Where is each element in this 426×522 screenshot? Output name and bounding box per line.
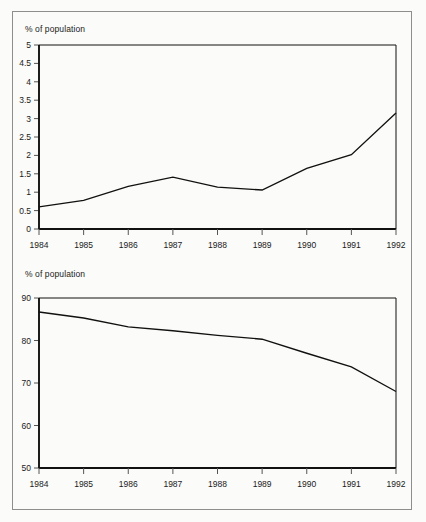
top-ytick-label: 1.5 [19, 169, 31, 179]
top-ytick-label: 1 [26, 187, 31, 197]
bottom-ytick-label: 60 [22, 421, 32, 431]
bottom-data-series [39, 312, 396, 391]
top-ytick-label: 4 [26, 77, 31, 87]
top-xtick-label: 1988 [208, 240, 227, 250]
top-data-series [39, 113, 396, 207]
top-chart-plot: 00.511.522.533.544.551984198519861987198… [0, 0, 426, 262]
bottom-xtick-label: 1987 [163, 479, 182, 489]
bottom-xtick-label: 1986 [119, 479, 138, 489]
top-ytick-label: 3.5 [19, 95, 31, 105]
bottom-xtick-label: 1991 [342, 479, 361, 489]
top-xtick-label: 1987 [163, 240, 182, 250]
page-canvas: % of population 00.511.522.533.544.55198… [0, 0, 426, 522]
bottom-ytick-label: 50 [22, 463, 32, 473]
top-ytick-label: 4.5 [19, 58, 31, 68]
top-xtick-label: 1984 [30, 240, 49, 250]
top-ytick-label: 3 [26, 114, 31, 124]
bottom-chart: % of population 506070809019841985198619… [0, 262, 426, 522]
top-xtick-label: 1985 [74, 240, 93, 250]
bottom-xtick-label: 1985 [74, 479, 93, 489]
top-ytick-label: 0 [26, 224, 31, 234]
bottom-xtick-label: 1992 [387, 479, 406, 489]
bottom-xtick-label: 1989 [253, 479, 272, 489]
bottom-xtick-label: 1990 [297, 479, 316, 489]
bottom-xtick-label: 1984 [30, 479, 49, 489]
bottom-ytick-label: 70 [22, 378, 32, 388]
top-xtick-label: 1991 [342, 240, 361, 250]
bottom-ytick-label: 80 [22, 336, 32, 346]
top-xtick-label: 1986 [119, 240, 138, 250]
top-ytick-label: 2 [26, 150, 31, 160]
top-ytick-label: 2.5 [19, 132, 31, 142]
top-ytick-label: 5 [26, 40, 31, 50]
top-xtick-label: 1989 [253, 240, 272, 250]
top-xtick-label: 1992 [387, 240, 406, 250]
bottom-ytick-label: 90 [22, 293, 32, 303]
bottom-chart-plot: 5060708090198419851986198719881989199019… [0, 262, 426, 522]
top-xtick-label: 1990 [297, 240, 316, 250]
bottom-xtick-label: 1988 [208, 479, 227, 489]
top-ytick-label: 0.5 [19, 206, 31, 216]
top-chart: % of population 00.511.522.533.544.55198… [0, 0, 426, 262]
